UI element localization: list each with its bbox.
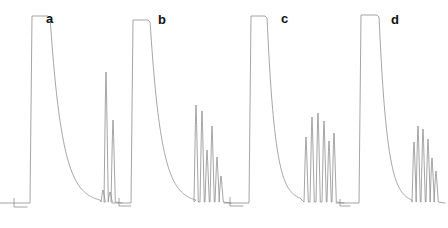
trace-line-d xyxy=(336,15,445,203)
axis-corner-mark-a xyxy=(14,198,28,207)
panel-label-b: b xyxy=(158,13,166,26)
panel-label-d: d xyxy=(391,13,399,26)
chromatogram-trace-d xyxy=(0,0,448,228)
trace-line-b xyxy=(112,20,231,203)
axis-corner-mark-c xyxy=(230,197,244,206)
panel-label-c: c xyxy=(281,12,288,25)
axis-corner-mark-d xyxy=(340,199,351,206)
chromatogram-trace-b xyxy=(0,0,448,228)
chromatogram-panel-c xyxy=(0,0,448,228)
chromatogram-figure: abcd xyxy=(0,0,448,228)
panel-label-a: a xyxy=(46,12,53,25)
chromatogram-trace-c xyxy=(0,0,448,228)
trace-line-a xyxy=(0,16,122,203)
chromatogram-panel-a xyxy=(0,0,448,228)
chromatogram-panel-d xyxy=(0,0,448,228)
chromatogram-trace-a xyxy=(0,0,448,228)
axis-corner-mark-b xyxy=(119,198,131,206)
chromatogram-panel-b xyxy=(0,0,448,228)
trace-line-c xyxy=(224,16,344,203)
